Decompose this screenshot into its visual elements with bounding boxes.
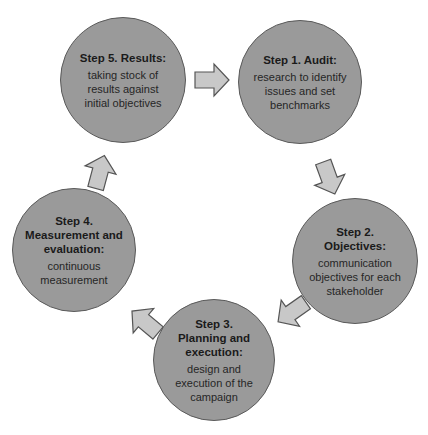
step-description: research to identify issues and set benc… — [250, 70, 350, 112]
step-description: taking stock of results against initial … — [75, 68, 171, 110]
step-4-measurement: Step 4. Measurement and evaluation: cont… — [12, 188, 136, 312]
arrow-right-icon — [195, 64, 229, 96]
arrow-down-right-icon — [308, 157, 350, 200]
step-3-planning: Step 3. Planning and execution: design a… — [153, 299, 275, 421]
step-5-results: Step 5. Results: taking stock of results… — [60, 17, 186, 143]
step-title: Step 3. Planning and execution: — [174, 317, 254, 359]
step-title: Step 1. Audit: — [263, 53, 337, 67]
step-1-audit: Step 1. Audit: research to identify issu… — [238, 20, 362, 144]
step-title: Step 4. Measurement and evaluation: — [19, 214, 129, 256]
step-title: Step 5. Results: — [80, 51, 166, 65]
step-description: continuous measurement — [34, 259, 114, 287]
step-description: communication objectives for each stakeh… — [305, 256, 405, 298]
step-description: design and execution of the campaign — [173, 362, 255, 404]
step-2-objectives: Step 2. Objectives: communication object… — [292, 198, 418, 324]
step-title: Step 2. Objectives: — [315, 225, 395, 253]
arrow-up-icon — [80, 151, 120, 192]
